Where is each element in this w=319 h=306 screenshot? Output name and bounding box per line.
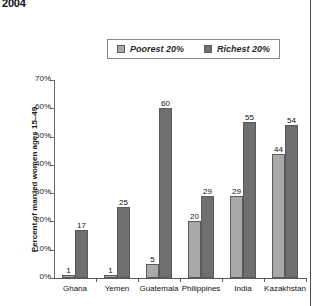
x-tick-mark	[222, 278, 223, 282]
bar-kazakhstan-richest[interactable]: 54	[285, 125, 298, 278]
frame-right-border	[310, 0, 311, 306]
bar-group-guatemala: 560	[138, 80, 180, 278]
bar-guatemala-richest[interactable]: 60	[159, 108, 172, 278]
legend-label-richest: Richest 20%	[217, 44, 270, 54]
bar-group-ghana: 117	[54, 80, 96, 278]
x-tick-mark	[96, 278, 97, 282]
bar-philippines-richest[interactable]: 29	[201, 196, 214, 278]
x-axis-label-india: India	[234, 284, 251, 293]
y-tick-label: 40%	[35, 159, 51, 168]
bar-value-label: 5	[150, 255, 154, 264]
bar-value-label: 1	[108, 266, 112, 275]
bar-ghana-richest[interactable]: 17	[75, 230, 88, 278]
bar-value-label: 29	[203, 187, 212, 196]
chart-legend: Poorest 20% Richest 20%	[107, 39, 280, 59]
legend-item-richest[interactable]: Richest 20%	[204, 44, 270, 54]
x-axis-label-philippines: Philippines	[182, 284, 221, 293]
y-tick-label: 10%	[35, 244, 51, 253]
y-tick-label: 70%	[35, 74, 51, 83]
bar-yemen-poorest[interactable]: 1	[104, 275, 117, 278]
x-axis-label-guatemala: Guatemala	[139, 284, 178, 293]
bar-value-label: 25	[119, 198, 128, 207]
bar-group-india: 2955	[222, 80, 264, 278]
bar-value-label: 20	[190, 212, 199, 221]
bar-india-poorest[interactable]: 29	[230, 196, 243, 278]
bar-value-label: 17	[77, 221, 86, 230]
bar-value-label: 54	[287, 116, 296, 125]
y-tick-label: 30%	[35, 187, 51, 196]
plot-area: 0%10%20%30%40%50%60%70% 1171255602029295…	[54, 80, 306, 278]
x-tick-mark	[138, 278, 139, 282]
x-axis-label-ghana: Ghana	[63, 284, 87, 293]
legend-swatch-poorest	[117, 45, 125, 53]
bar-india-richest[interactable]: 55	[243, 122, 256, 278]
bar-group-yemen: 125	[96, 80, 138, 278]
y-tick-label: 50%	[35, 131, 51, 140]
chart-title: 2004	[2, 0, 26, 9]
bar-group-philippines: 2029	[180, 80, 222, 278]
bar-value-label: 29	[232, 187, 241, 196]
x-axis-label-kazakhstan: Kazakhstan	[264, 284, 306, 293]
bar-group-kazakhstan: 4454	[264, 80, 306, 278]
bar-ghana-poorest[interactable]: 1	[62, 275, 75, 278]
bar-value-label: 60	[161, 99, 170, 108]
bar-kazakhstan-poorest[interactable]: 44	[272, 154, 285, 278]
y-tick-label: 60%	[35, 102, 51, 111]
bar-value-label: 55	[245, 113, 254, 122]
bar-guatemala-poorest[interactable]: 5	[146, 264, 159, 278]
bar-value-label: 1	[66, 266, 70, 275]
y-tick-label: 0%	[39, 272, 51, 281]
x-tick-mark	[264, 278, 265, 282]
legend-swatch-richest	[204, 45, 212, 53]
y-tick-label: 20%	[35, 215, 51, 224]
x-axis-label-yemen: Yemen	[105, 284, 130, 293]
bar-philippines-poorest[interactable]: 20	[188, 221, 201, 278]
bar-value-label: 44	[274, 145, 283, 154]
x-tick-mark	[180, 278, 181, 282]
bar-yemen-richest[interactable]: 25	[117, 207, 130, 278]
x-tick-mark	[306, 278, 307, 282]
legend-label-poorest: Poorest 20%	[130, 44, 184, 54]
legend-item-poorest[interactable]: Poorest 20%	[117, 44, 184, 54]
